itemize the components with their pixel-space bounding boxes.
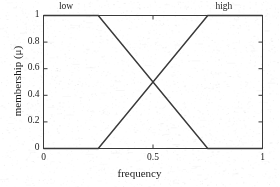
- x-axis-label: frequency: [0, 167, 279, 179]
- x-tick-label: 0.5: [133, 152, 173, 162]
- y-tick-label: 0: [35, 142, 40, 152]
- y-axis-label: membership (μ): [11, 26, 23, 136]
- membership-function-chart: 00.20.40.60.8100.51 low high frequency m…: [0, 0, 279, 187]
- series-annotation-high: high: [215, 1, 232, 11]
- y-tick-label: 0.6: [28, 62, 40, 72]
- series-annotation-low: low: [59, 1, 73, 11]
- x-tick-label: 0: [24, 152, 64, 162]
- y-tick-label: 1: [35, 9, 40, 19]
- y-tick-label: 0.2: [28, 115, 40, 125]
- x-tick-label: 1: [243, 152, 280, 162]
- y-tick-label: 0.8: [28, 36, 40, 46]
- y-tick-label: 0.4: [28, 89, 40, 99]
- data-series-lines: [44, 16, 263, 149]
